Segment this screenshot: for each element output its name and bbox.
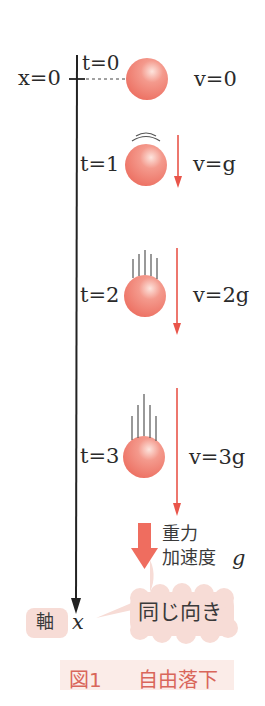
figure-caption: 図1 自由落下 [60, 660, 234, 690]
time-label-t1: t=1 [80, 154, 119, 175]
gravity-label-line2: 加速度 [162, 548, 216, 568]
velocity-label-t2: v=2g [193, 285, 249, 306]
x-axis [69, 55, 126, 614]
gravity-arrow [131, 523, 158, 569]
free-fall-figure: x=0 t=0 t=1 t=2 t=3 v=0 v=g v=2g v=3g 重力… [0, 0, 265, 706]
ball-t1 [125, 144, 167, 186]
velocity-label-t1: v=g [193, 154, 236, 175]
velocity-arrow-t3 [173, 388, 181, 516]
velocity-label-t3: v=3g [189, 447, 245, 468]
speech-bubble-text: 同じ向き [138, 601, 222, 624]
motion-lines-t3 [132, 394, 156, 441]
velocity-arrow-t1 [174, 135, 182, 188]
diagram-graphics [0, 0, 265, 706]
motion-lines-t2 [133, 250, 157, 279]
origin-label: x=0 [18, 68, 61, 89]
velocity-label-t0: v=0 [194, 69, 237, 90]
ball-t3 [123, 436, 165, 478]
motion-lines-t1 [132, 133, 160, 141]
gravity-symbol: g [232, 548, 245, 569]
velocity-arrow-t2 [173, 248, 181, 335]
time-label-t2: t=2 [80, 285, 119, 306]
ball-t2 [124, 275, 166, 317]
time-label-t0: t=0 [82, 53, 120, 73]
time-label-t3: t=3 [80, 446, 119, 467]
axis-variable: x [72, 612, 84, 633]
caption-title: 自由落下 [138, 664, 218, 693]
axis-word: 軸 [36, 612, 54, 632]
ball-t0 [126, 58, 168, 100]
caption-number: 図1 [69, 664, 102, 693]
gravity-label-line1: 重力 [162, 524, 198, 544]
